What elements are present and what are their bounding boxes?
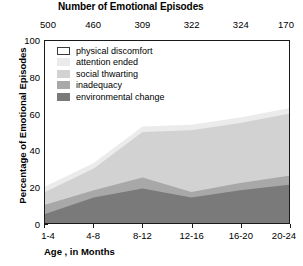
x-tick-mark — [192, 224, 193, 228]
y-tick-label: 20 — [16, 182, 40, 193]
y-tick-label: 100 — [16, 35, 40, 46]
x-tick-label: 20-24 — [272, 230, 296, 241]
y-tick-label: 40 — [16, 145, 40, 156]
legend-label: social thwarting — [76, 69, 138, 79]
legend-item: attention ended — [57, 57, 207, 68]
legend-item: physical discomfort — [57, 45, 207, 56]
legend: physical discomfortattention endedsocial… — [57, 45, 207, 103]
x-tick-label: 4-8 — [86, 230, 100, 241]
legend-swatch — [57, 81, 70, 89]
x-tick-mark — [290, 224, 291, 228]
x-tick-label: 16-20 — [229, 230, 253, 241]
y-tick-label: 80 — [16, 71, 40, 82]
x-axis-title: Age , in Months — [44, 246, 115, 257]
legend-swatch — [57, 58, 70, 66]
legend-swatch — [57, 70, 70, 78]
legend-label: attention ended — [76, 57, 138, 67]
x-tick-mark — [93, 224, 94, 228]
legend-swatch — [57, 93, 70, 101]
legend-label: physical discomfort — [76, 46, 153, 56]
legend-swatch — [57, 47, 70, 55]
legend-label: environmental change — [76, 92, 165, 102]
x-tick-mark — [241, 224, 242, 228]
legend-item: social thwarting — [57, 68, 207, 79]
x-tick-label: 12-16 — [179, 230, 203, 241]
legend-item: inadequacy — [57, 80, 207, 91]
legend-label: inadequacy — [76, 80, 122, 90]
x-tick-label: 8-12 — [133, 230, 152, 241]
x-tick-mark — [44, 224, 45, 228]
x-tick-label: 1-4 — [41, 230, 55, 241]
y-tick-label: 0 — [16, 219, 40, 230]
y-tick-label: 60 — [16, 108, 40, 119]
x-tick-mark — [142, 224, 143, 228]
legend-item: environmental change — [57, 91, 207, 102]
chart-root: Number of Emotional Episodes 50046030932… — [0, 0, 303, 266]
